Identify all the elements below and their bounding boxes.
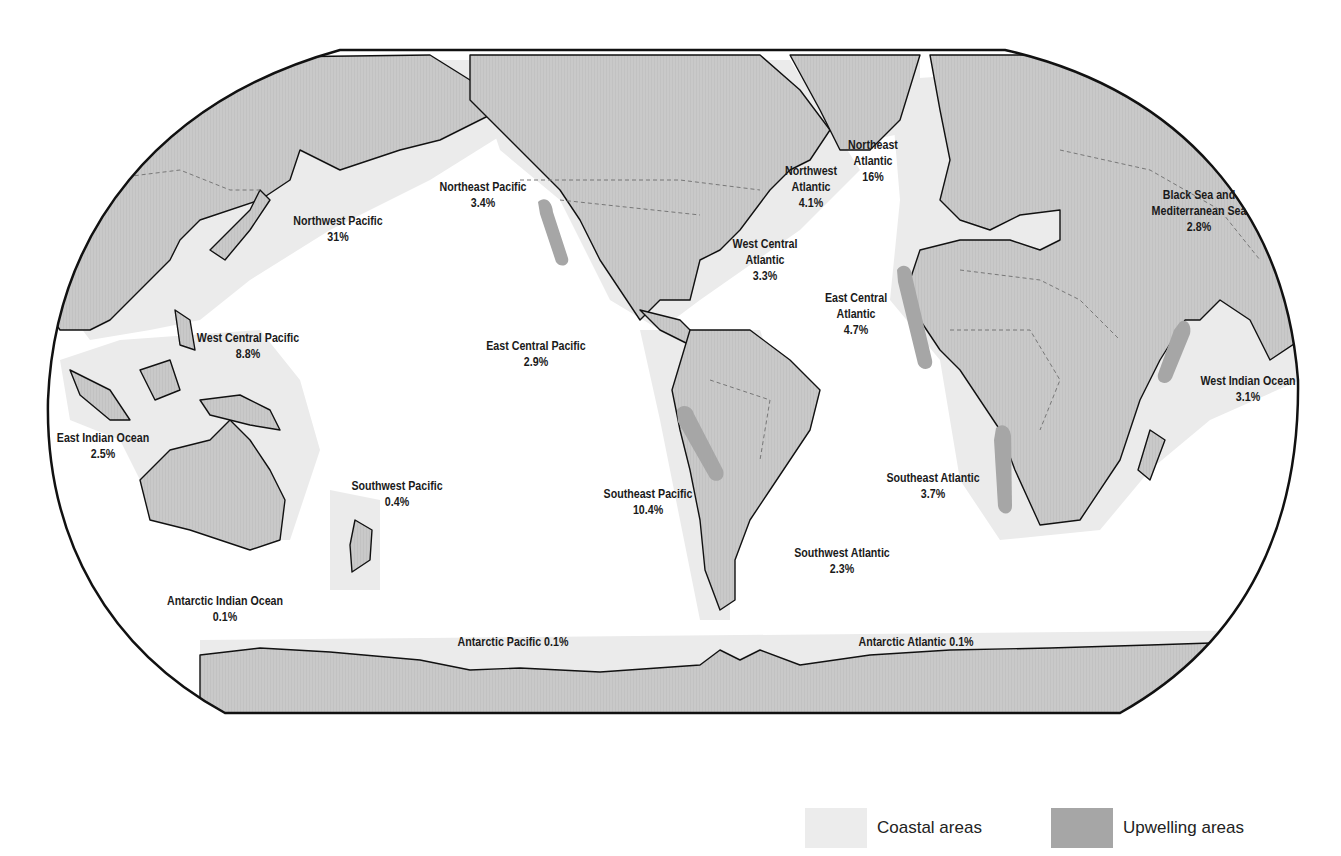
- region-value: 10.4%: [591, 502, 706, 518]
- region-name-line2: Atlantic: [832, 153, 914, 169]
- label-black-sea-mediterranean: Black Sea and Mediterranean Sea 2.8%: [1138, 187, 1261, 235]
- region-name-value: Antarctic Atlantic 0.1%: [842, 634, 990, 650]
- label-northeast-atlantic: Northeast Atlantic 16%: [832, 137, 914, 185]
- region-name: Northwest Pacific: [281, 213, 396, 229]
- label-antarctic-indian-ocean: Antarctic Indian Ocean 0.1%: [159, 593, 290, 625]
- region-name: Northeast: [832, 137, 914, 153]
- region-name: Southeast Pacific: [591, 486, 706, 502]
- region-value: 4.1%: [770, 195, 852, 211]
- region-value: 3.7%: [876, 486, 991, 502]
- region-name: Southeast Atlantic: [876, 470, 991, 486]
- world-map: [0, 0, 1341, 856]
- region-name-line2: Mediterranean Sea: [1138, 203, 1261, 219]
- region-name: Northeast Pacific: [426, 179, 541, 195]
- region-value: 0.4%: [340, 494, 455, 510]
- label-northeast-pacific: Northeast Pacific 3.4%: [426, 179, 541, 211]
- upwelling-swatch: [1051, 808, 1113, 848]
- label-southeast-pacific: Southeast Pacific 10.4%: [591, 486, 706, 518]
- region-value: 2.5%: [46, 446, 161, 462]
- region-value: 3.1%: [1191, 389, 1306, 405]
- label-west-central-pacific: West Central Pacific 8.8%: [187, 330, 310, 362]
- region-name-value: Antarctic Pacific 0.1%: [439, 634, 587, 650]
- region-name: West Indian Ocean: [1191, 373, 1306, 389]
- region-name-line2: Atlantic: [716, 252, 814, 268]
- coastal-swatch: [805, 808, 867, 848]
- region-value: 2.8%: [1138, 219, 1261, 235]
- region-value: 2.3%: [785, 561, 900, 577]
- label-east-central-pacific: East Central Pacific 2.9%: [475, 338, 598, 370]
- label-northwest-pacific: Northwest Pacific 31%: [281, 213, 396, 245]
- region-value: 16%: [832, 169, 914, 185]
- region-name: Southwest Atlantic: [785, 545, 900, 561]
- label-antarctic-pacific: Antarctic Pacific 0.1%: [439, 634, 587, 650]
- legend-upwelling: Upwelling areas: [1051, 808, 1244, 848]
- region-name: West Central Pacific: [187, 330, 310, 346]
- region-name: East Indian Ocean: [46, 430, 161, 446]
- region-name: Antarctic Indian Ocean: [159, 593, 290, 609]
- label-west-indian-ocean: West Indian Ocean 3.1%: [1191, 373, 1306, 405]
- region-value: 0.1%: [159, 609, 290, 625]
- label-west-central-atlantic: West Central Atlantic 3.3%: [716, 236, 814, 284]
- region-name: Black Sea and: [1138, 187, 1261, 203]
- label-southwest-atlantic: Southwest Atlantic 2.3%: [785, 545, 900, 577]
- region-name: West Central: [716, 236, 814, 252]
- legend-label-upwelling: Upwelling areas: [1123, 818, 1244, 838]
- land-antarctica: [200, 640, 1300, 760]
- label-southeast-atlantic: Southeast Atlantic 3.7%: [876, 470, 991, 502]
- region-name: East Central Pacific: [475, 338, 598, 354]
- region-name: Southwest Pacific: [340, 478, 455, 494]
- region-value: 31%: [281, 229, 396, 245]
- region-value: 3.3%: [716, 268, 814, 284]
- label-east-indian-ocean: East Indian Ocean 2.5%: [46, 430, 161, 462]
- region-name-line2: Atlantic: [811, 306, 901, 322]
- label-antarctic-atlantic: Antarctic Atlantic 0.1%: [842, 634, 990, 650]
- label-southwest-pacific: Southwest Pacific 0.4%: [340, 478, 455, 510]
- region-value: 3.4%: [426, 195, 541, 211]
- legend-coastal: Coastal areas: [805, 808, 982, 848]
- map-body: [0, 0, 1341, 856]
- region-value: 2.9%: [475, 354, 598, 370]
- label-east-central-atlantic: East Central Atlantic 4.7%: [811, 290, 901, 338]
- legend-label-coastal: Coastal areas: [877, 818, 982, 838]
- region-value: 4.7%: [811, 322, 901, 338]
- region-value: 8.8%: [187, 346, 310, 362]
- region-name: East Central: [811, 290, 901, 306]
